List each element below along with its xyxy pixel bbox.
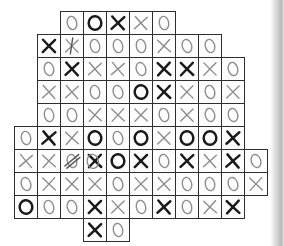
o-mark [130,127,152,149]
grid-cell-r2c2[interactable] [37,34,61,58]
x-mark [38,150,60,172]
grid-cell-r5c2[interactable] [37,103,61,127]
grid-cell-r8c7[interactable] [152,172,176,196]
grid-cell-r5c4[interactable] [83,103,107,127]
x-mark [61,173,83,195]
grid-cell-r1c3[interactable] [60,11,84,35]
o-mark [176,173,198,195]
grid-cell-r6c3[interactable] [60,126,84,150]
grid-cell-r4c3[interactable] [60,80,84,104]
grid-cell-r1c5[interactable] [106,11,130,35]
grid-cell-r9c6[interactable] [129,195,153,219]
o-mark [107,127,129,149]
grid-cell-r7c5[interactable] [106,149,130,173]
grid-cell-r8c3[interactable] [60,172,84,196]
grid-cell-r2c8[interactable] [175,34,199,58]
o-mark [222,173,244,195]
grid-cell-r9c2[interactable] [37,195,61,219]
grid-cell-r4c7[interactable] [152,80,176,104]
grid-cell-r6c8[interactable] [175,126,199,150]
grid-cell-r6c2[interactable] [37,126,61,150]
grid-cell-r6c1[interactable] [14,126,38,150]
grid-cell-r8c2[interactable] [37,172,61,196]
grid-cell-r1c7[interactable] [152,11,176,35]
grid-cell-r3c7[interactable] [152,57,176,81]
grid-cell-r6c7[interactable] [152,126,176,150]
grid-cell-r4c9[interactable] [198,80,222,104]
o-mark [61,12,83,34]
grid-cell-r4c4[interactable] [83,80,107,104]
grid-cell-r9c7[interactable] [152,195,176,219]
x-mark [153,58,175,80]
grid-cell-r8c10[interactable] [221,172,245,196]
grid-cell-r3c5[interactable] [106,57,130,81]
grid-cell-r7c2[interactable] [37,149,61,173]
grid-cell-r7c8[interactable] [175,149,199,173]
grid-cell-r2c5[interactable] [106,34,130,58]
grid-cell-r5c7[interactable] [152,103,176,127]
grid-cell-r5c9[interactable] [198,103,222,127]
x-mark [222,127,244,149]
grid-cell-r7c6[interactable] [129,149,153,173]
grid-cell-r7c7[interactable] [152,149,176,173]
grid-cell-r8c4[interactable] [83,172,107,196]
grid-cell-r9c5[interactable] [106,195,130,219]
grid-cell-r2c4[interactable] [83,34,107,58]
grid-cell-r7c4[interactable] [83,149,107,173]
grid-cell-r9c4[interactable] [83,195,107,219]
grid-cell-r3c3[interactable] [60,57,84,81]
o-mark [15,127,37,149]
grid-cell-r2c7[interactable] [152,34,176,58]
grid-cell-r2c6[interactable] [129,34,153,58]
grid-cell-r9c9[interactable] [198,195,222,219]
grid-cell-r7c10[interactable] [221,149,245,173]
grid-cell-r8c8[interactable] [175,172,199,196]
o-mark [222,104,244,126]
grid-cell-r7c1[interactable] [14,149,38,173]
grid-cell-r8c5[interactable] [106,172,130,196]
grid-cell-r6c6[interactable] [129,126,153,150]
grid-cell-r3c6[interactable] [129,57,153,81]
x-mark [176,104,198,126]
grid-cell-r2c9[interactable] [198,34,222,58]
grid-cell-r6c10[interactable] [221,126,245,150]
grid-cell-r9c3[interactable] [60,195,84,219]
grid-cell-r3c10[interactable] [221,57,245,81]
grid-cell-r9c10[interactable] [221,195,245,219]
grid-cell-r6c4[interactable] [83,126,107,150]
grid-cell-r4c6[interactable] [129,80,153,104]
grid-cell-r3c2[interactable] [37,57,61,81]
grid-cell-r4c5[interactable] [106,80,130,104]
grid-cell-r3c9[interactable] [198,57,222,81]
grid-cell-r10c4[interactable] [83,218,107,242]
grid-cell-r7c11[interactable] [244,149,268,173]
grid-cell-r9c8[interactable] [175,195,199,219]
grid-cell-r8c6[interactable] [129,172,153,196]
grid-cell-r5c5[interactable] [106,103,130,127]
grid-cell-r9c1[interactable] [14,195,38,219]
grid-cell-r4c10[interactable] [221,80,245,104]
grid-cell-r6c9[interactable] [198,126,222,150]
grid-cell-r5c10[interactable] [221,103,245,127]
grid-cell-r5c8[interactable] [175,103,199,127]
grid-cell-r10c5[interactable] [106,218,130,242]
x-mark [84,173,106,195]
o-mark [107,173,129,195]
o-mark [38,196,60,218]
grid-cell-r8c1[interactable] [14,172,38,196]
grid-cell-r5c3[interactable] [60,103,84,127]
grid-cell-r1c6[interactable] [129,11,153,35]
grid-cell-r7c9[interactable] [198,149,222,173]
x-mark [245,173,267,195]
grid-cell-r3c8[interactable] [175,57,199,81]
grid-cell-r3c4[interactable] [83,57,107,81]
grid-cell-r4c2[interactable] [37,80,61,104]
grid-cell-r4c8[interactable] [175,80,199,104]
grid-cell-r6c5[interactable] [106,126,130,150]
grid-cell-r5c6[interactable] [129,103,153,127]
grid-cell-r7c3[interactable] [60,149,84,173]
grid-cell-r1c4[interactable] [83,11,107,35]
grid-cell-r2c3[interactable] [60,34,84,58]
grid-cell-r8c9[interactable] [198,172,222,196]
grid-cell-r8c11[interactable] [244,172,268,196]
